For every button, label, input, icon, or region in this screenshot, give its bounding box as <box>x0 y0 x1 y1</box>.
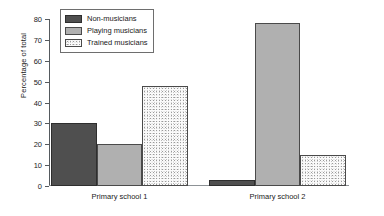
y-axis-tick <box>45 186 49 187</box>
bar-chart: Percentage of total 01020304050607080 Pr… <box>0 0 384 216</box>
legend-swatch-icon-trained-musicians <box>65 39 82 47</box>
y-axis-tick-label: 70 <box>34 35 42 44</box>
y-axis-tick-label: 50 <box>34 77 42 86</box>
legend-item-trained-musicians: Trained musicians <box>65 37 148 49</box>
legend-label-playing-musicians: Playing musicians <box>87 27 147 35</box>
bar-non-musicians-group-1 <box>51 123 97 186</box>
y-axis-tick-label: 10 <box>34 161 42 170</box>
legend-label-trained-musicians: Trained musicians <box>87 39 148 47</box>
legend-label-non-musicians: Non-musicians <box>87 15 137 23</box>
bar-playing-musicians-group-1 <box>97 144 143 186</box>
y-axis-tick <box>45 103 49 104</box>
y-axis-line <box>49 19 50 186</box>
y-axis-tick-label: 40 <box>34 98 42 107</box>
bar-trained-musicians-group-2 <box>300 155 346 186</box>
y-axis-title: Percentage of total <box>19 0 28 136</box>
y-axis-tick <box>45 144 49 145</box>
y-axis-tick-label: 60 <box>34 56 42 65</box>
y-axis-tick <box>45 19 49 20</box>
legend-item-non-musicians: Non-musicians <box>65 13 148 25</box>
chart-legend: Non-musicians Playing musicians Trained … <box>60 9 154 53</box>
y-axis-tick-label: 80 <box>34 15 42 24</box>
y-axis-tick-label: 20 <box>34 140 42 149</box>
y-axis-tick <box>45 165 49 166</box>
bar-non-musicians-group-2 <box>209 180 255 186</box>
y-axis-tick-label: 0 <box>38 182 42 191</box>
legend-item-playing-musicians: Playing musicians <box>65 25 148 37</box>
bar-trained-musicians-group-1 <box>142 86 188 186</box>
y-axis-tick <box>45 82 49 83</box>
x-axis-label-group-1: Primary school 1 <box>92 192 148 201</box>
y-axis-tick <box>45 123 49 124</box>
y-axis-tick <box>45 40 49 41</box>
legend-swatch-icon-non-musicians <box>65 15 82 23</box>
y-axis-tick <box>45 61 49 62</box>
x-axis-label-group-2: Primary school 2 <box>250 192 306 201</box>
y-axis-tick-label: 30 <box>34 119 42 128</box>
legend-swatch-icon-playing-musicians <box>65 27 82 35</box>
bar-playing-musicians-group-2 <box>255 23 301 186</box>
